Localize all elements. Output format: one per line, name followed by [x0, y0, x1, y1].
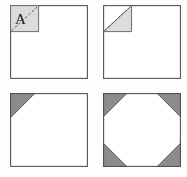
- panel-square-with-corner-flap-labeled-a: A: [10, 5, 88, 79]
- panel-2-drawing: [103, 5, 181, 79]
- sheet-outline: [104, 6, 181, 79]
- panel-4-drawing: [103, 93, 181, 167]
- panel-1-drawing: A: [10, 5, 88, 79]
- panel-square-with-folded-triangle-corner: [103, 5, 181, 79]
- panel-square-with-one-cut-corner: [10, 93, 88, 167]
- panel-square-with-four-cut-corners-octagon: [103, 93, 181, 167]
- figure-grid: A: [0, 0, 187, 177]
- label-a: A: [15, 11, 26, 27]
- panel-3-drawing: [10, 93, 88, 167]
